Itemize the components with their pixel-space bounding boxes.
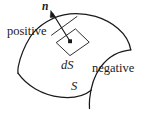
surface-left-edge xyxy=(18,37,31,74)
negative-side-label: negative xyxy=(92,62,134,75)
normal-vector-shaft xyxy=(53,13,70,41)
oriented-surface-figure: n positive negative dS S xyxy=(0,0,145,113)
surface-bottom-edge xyxy=(18,73,92,97)
positive-side-label: positive xyxy=(7,25,47,38)
surface-right-fold-edge xyxy=(89,50,130,109)
normal-vector-label: n xyxy=(42,1,48,13)
normal-vector-arrowhead xyxy=(50,11,55,18)
area-element-label: dS xyxy=(61,59,74,72)
area-element-parallelogram xyxy=(56,29,89,56)
surface-label: S xyxy=(71,80,77,93)
surface-diagram-svg xyxy=(0,0,145,113)
